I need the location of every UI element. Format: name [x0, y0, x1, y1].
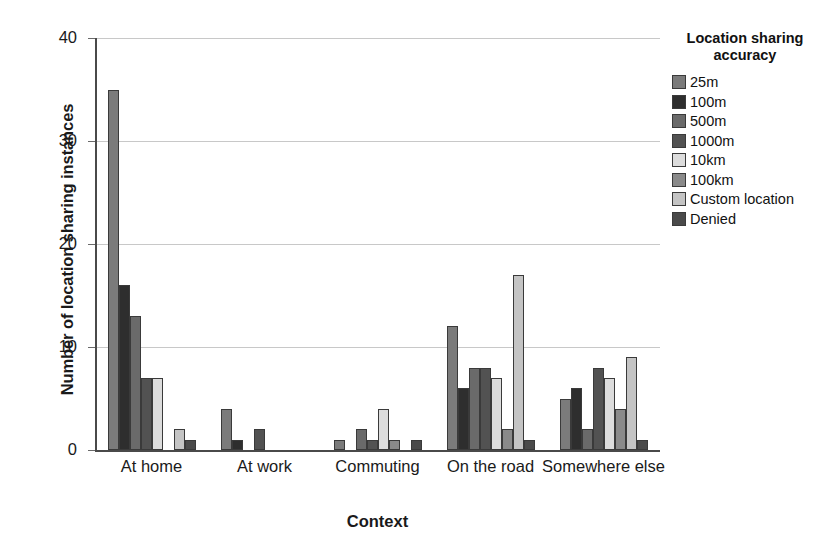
y-tick-mark: 20 — [88, 244, 95, 245]
legend-label: Denied — [690, 211, 736, 227]
bar — [513, 275, 524, 450]
bar — [119, 285, 130, 450]
legend-swatch — [672, 153, 686, 167]
bar-cluster: Somewhere else — [547, 38, 660, 450]
y-tick-label: 20 — [59, 234, 77, 253]
bar-cluster: Commuting — [321, 38, 434, 450]
bar — [458, 388, 469, 450]
bar — [367, 440, 378, 450]
bar — [254, 429, 265, 450]
bar — [221, 409, 232, 450]
plot-area: 010203040 At homeAt workCommutingOn the … — [95, 38, 660, 452]
legend-label: Custom location — [690, 191, 794, 207]
bar — [582, 429, 593, 450]
bar — [447, 326, 458, 450]
bar — [491, 378, 502, 450]
x-tick-label: At home — [87, 456, 217, 476]
legend-item[interactable]: 100km — [672, 171, 827, 189]
bar-group — [447, 38, 535, 450]
x-axis-title: Context — [95, 512, 660, 531]
bar-group — [560, 38, 648, 450]
legend-label: 10km — [690, 152, 725, 168]
bar — [626, 357, 637, 450]
y-tick-label: 30 — [59, 131, 77, 150]
legend-label: 100km — [690, 172, 734, 188]
bar — [334, 440, 345, 450]
legend-item[interactable]: 10km — [672, 151, 827, 169]
y-tick-mark: 10 — [88, 347, 95, 348]
x-tick-label: Commuting — [313, 456, 443, 476]
bar — [560, 399, 571, 451]
legend-label: 500m — [690, 113, 726, 129]
bar — [480, 368, 491, 450]
bar — [356, 429, 367, 450]
legend-items: 25m100m500m1000m10km100kmCustom location… — [672, 73, 827, 228]
bar — [571, 388, 582, 450]
legend-swatch — [672, 173, 686, 187]
bar-chart-figure: Number of location sharing instances 010… — [0, 0, 833, 554]
bar — [130, 316, 141, 450]
legend-swatch — [672, 75, 686, 89]
legend-item[interactable]: 500m — [672, 112, 827, 130]
legend-item[interactable]: 25m — [672, 73, 827, 91]
bar-group — [108, 38, 196, 450]
bar — [389, 440, 400, 450]
legend-swatch — [672, 192, 686, 206]
bar-cluster: On the road — [434, 38, 547, 450]
bar — [411, 440, 422, 450]
bar — [174, 429, 185, 450]
legend-item[interactable]: Denied — [672, 210, 827, 228]
x-tick-label: At work — [200, 456, 330, 476]
legend-label: 100m — [690, 94, 726, 110]
legend: Location sharing accuracy 25m100m500m100… — [672, 30, 827, 229]
legend-swatch — [672, 114, 686, 128]
bar — [502, 429, 513, 450]
bar — [378, 409, 389, 450]
bar-group — [221, 38, 309, 450]
bar — [232, 440, 243, 450]
bar — [469, 368, 480, 450]
bar — [152, 378, 163, 450]
legend-swatch — [672, 134, 686, 148]
bar — [604, 378, 615, 450]
bar-group — [334, 38, 422, 450]
bar — [108, 90, 119, 451]
legend-item[interactable]: 100m — [672, 93, 827, 111]
bar — [185, 440, 196, 450]
legend-swatch — [672, 212, 686, 226]
legend-label: 25m — [690, 74, 718, 90]
bar — [637, 440, 648, 450]
bar-cluster: At work — [208, 38, 321, 450]
x-tick-label: On the road — [426, 456, 556, 476]
bar — [524, 440, 535, 450]
legend-swatch — [672, 95, 686, 109]
legend-title: Location sharing accuracy — [686, 30, 804, 64]
bar — [141, 378, 152, 450]
legend-label: 1000m — [690, 133, 734, 149]
bar-cluster: At home — [95, 38, 208, 450]
bar — [593, 368, 604, 450]
y-tick-mark: 0 — [88, 450, 95, 451]
legend-item[interactable]: 1000m — [672, 132, 827, 150]
legend-item[interactable]: Custom location — [672, 190, 827, 208]
y-tick-label: 40 — [59, 28, 77, 47]
y-tick-label: 0 — [68, 440, 77, 459]
x-tick-label: Somewhere else — [539, 456, 669, 476]
x-axis-line — [95, 450, 660, 452]
y-tick-mark: 30 — [88, 141, 95, 142]
y-tick-mark: 40 — [88, 38, 95, 39]
bar — [615, 409, 626, 450]
y-tick-label: 10 — [59, 337, 77, 356]
